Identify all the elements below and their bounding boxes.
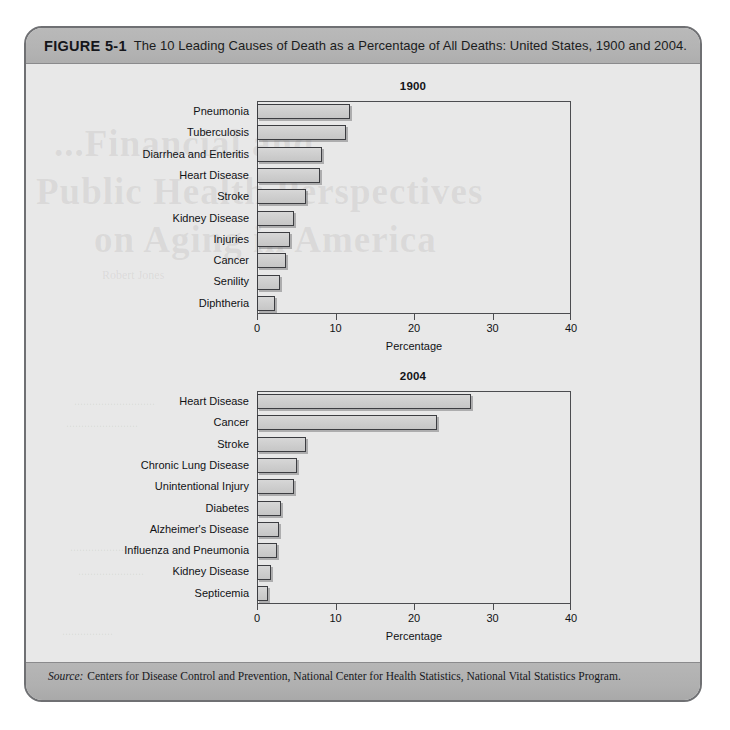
bar-row: Injuries [257,229,571,250]
bars-layer-1900: PneumoniaTuberculosisDiarrhea and Enteri… [257,101,571,314]
bar-category-label: Diphtheria [199,295,249,312]
x-axis-tick [570,314,571,320]
bar [257,168,320,183]
bar-category-label: Injuries [214,231,249,248]
bar-row: Diabetes [257,498,571,519]
bar-row: Heart Disease [257,391,571,412]
bar [257,586,268,601]
bar [257,125,346,140]
bar [257,104,350,119]
bars-layer-2004: Heart DiseaseCancerStrokeChronic Lung Di… [257,391,571,604]
bar-row: Cancer [257,412,571,433]
x-axis-tick-label: 10 [329,612,341,624]
bar [257,211,294,226]
bar [257,479,294,494]
bar-row: Stroke [257,434,571,455]
x-axis-tick [336,604,337,610]
bar-row: Kidney Disease [257,561,571,582]
x-axis-tick-label: 20 [408,612,420,624]
bar-row: Pneumonia [257,101,571,122]
bar-category-label: Pneumonia [193,103,249,120]
x-axis-title-1900: Percentage [257,340,571,352]
bar [257,522,279,537]
x-axis-tick [414,604,415,610]
x-axis-2004: Percentage 010203040 [257,604,571,644]
bar-category-label: Stroke [217,188,249,205]
bar-row: Heart Disease [257,165,571,186]
x-axis-tick [493,604,494,610]
x-axis-tick-label: 20 [408,322,420,334]
bar-category-label: Diabetes [206,500,249,517]
x-axis-tick-label: 0 [254,322,260,334]
bar-category-label: Kidney Disease [173,563,249,580]
chart-panel-2004: 2004 Heart DiseaseCancerStrokeChronic Lu… [26,370,700,658]
chart-title-1900: 1900 [26,80,700,92]
bar-category-label: Unintentional Injury [155,478,249,495]
chart-panel-1900: 1900 PneumoniaTuberculosisDiarrhea and E… [26,80,700,368]
figure-caption-text: The 10 Leading Causes of Death as a Perc… [134,38,687,53]
bar-row: Cancer [257,250,571,271]
figure-caption-band: FIGURE 5-1 The 10 Leading Causes of Deat… [26,28,700,64]
figure-source-band: Source: Centers for Disease Control and … [26,662,700,700]
bar-category-label: Heart Disease [179,393,249,410]
bar [257,189,306,204]
bar-row: Chronic Lung Disease [257,455,571,476]
bar-category-label: Cancer [214,414,249,431]
bar [257,437,306,452]
bar-category-label: Influenza and Pneumonia [124,542,249,559]
bar [257,296,275,311]
bar-row: Septicemia [257,583,571,604]
chart-title-2004: 2004 [26,370,700,382]
bar [257,501,281,516]
bar [257,458,297,473]
x-axis-tick [257,314,258,320]
figure-box: FIGURE 5-1 The 10 Leading Causes of Deat… [24,26,702,702]
x-axis-tick [414,314,415,320]
x-axis-tick [257,604,258,610]
bar-category-label: Kidney Disease [173,210,249,227]
x-axis-tick [493,314,494,320]
bar-row: Senility [257,271,571,292]
x-axis-tick-label: 30 [486,612,498,624]
bar-category-label: Alzheimer's Disease [150,521,249,538]
bar-row: Influenza and Pneumonia [257,540,571,561]
bar [257,275,280,290]
x-axis-tick-label: 30 [486,322,498,334]
bar [257,415,437,430]
x-axis-tick [570,604,571,610]
bar-row: Unintentional Injury [257,476,571,497]
x-axis-tick-label: 40 [565,612,577,624]
bar-category-label: Stroke [217,436,249,453]
bar [257,565,271,580]
x-axis-tick-label: 10 [329,322,341,334]
x-axis-tick [336,314,337,320]
bar-row: Diarrhea and Enteritis [257,144,571,165]
bar [257,232,290,247]
bar [257,147,322,162]
bar-category-label: Tuberculosis [187,124,249,141]
x-axis-tick-label: 0 [254,612,260,624]
bar-row: Stroke [257,186,571,207]
bar-category-label: Chronic Lung Disease [141,457,249,474]
source-label: Source: [48,670,83,682]
bar [257,543,277,558]
bar [257,394,471,409]
bar-row: Kidney Disease [257,208,571,229]
bar-category-label: Septicemia [195,585,249,602]
source-text: Centers for Disease Control and Preventi… [87,670,620,682]
bar-category-label: Cancer [214,252,249,269]
bar-row: Alzheimer's Disease [257,519,571,540]
x-axis-1900: Percentage 010203040 [257,314,571,354]
bar-row: Diphtheria [257,293,571,314]
bar-category-label: Heart Disease [179,167,249,184]
x-axis-tick-label: 40 [565,322,577,334]
figure-body: ...Financial and Public Health Perspecti… [26,64,700,666]
bar-category-label: Senility [214,273,249,290]
bar [257,253,286,268]
bar-category-label: Diarrhea and Enteritis [143,146,249,163]
bar-row: Tuberculosis [257,122,571,143]
figure-number: FIGURE 5-1 [44,38,127,54]
x-axis-title-2004: Percentage [257,630,571,642]
